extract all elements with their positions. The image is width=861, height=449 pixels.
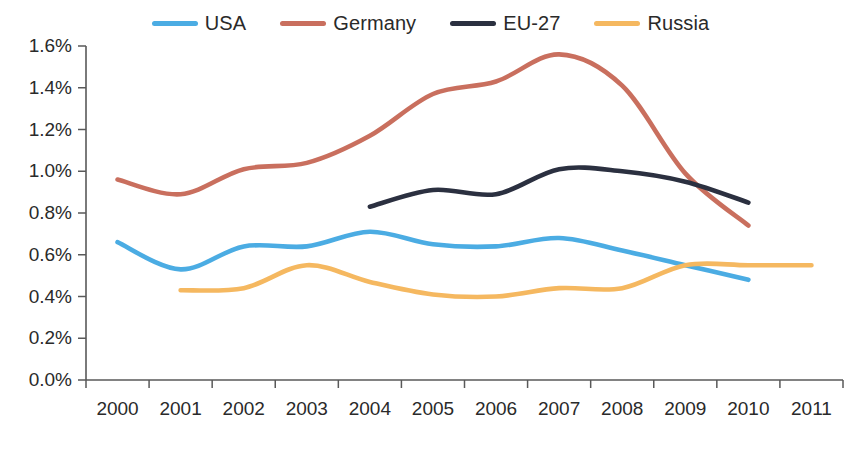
x-tick-label: 2004 xyxy=(349,398,392,419)
y-tick-label: 1.0% xyxy=(29,160,72,181)
legend-swatch-russia xyxy=(594,21,640,26)
y-tick-label: 0.4% xyxy=(29,286,72,307)
series-line-eu-27[interactable] xyxy=(370,168,749,207)
plot-svg: 0.0%0.2%0.4%0.6%0.8%1.0%1.2%1.4%1.6% 200… xyxy=(0,34,861,449)
plot-area: 0.0%0.2%0.4%0.6%0.8%1.0%1.2%1.4%1.6% 200… xyxy=(0,34,861,449)
y-axis-ticks xyxy=(78,46,86,380)
y-tick-label: 0.6% xyxy=(29,244,72,265)
y-tick-label: 1.6% xyxy=(29,35,72,56)
legend-label-usa: USA xyxy=(205,13,246,33)
x-tick-label: 2003 xyxy=(286,398,328,419)
y-tick-label: 0.2% xyxy=(29,327,72,348)
legend-label-eu27: EU-27 xyxy=(503,13,560,33)
y-axis-labels: 0.0%0.2%0.4%0.6%0.8%1.0%1.2%1.4%1.6% xyxy=(29,35,72,390)
legend-item-germany[interactable]: Germany xyxy=(280,13,416,33)
x-tick-label: 2002 xyxy=(223,398,265,419)
series-line-germany[interactable] xyxy=(118,54,749,225)
legend-swatch-usa xyxy=(152,21,198,26)
legend-swatch-eu27 xyxy=(450,21,496,26)
x-tick-label: 2011 xyxy=(791,398,832,419)
x-tick-label: 2005 xyxy=(412,398,454,419)
legend-label-russia: Russia xyxy=(647,13,709,33)
x-tick-label: 2006 xyxy=(475,398,517,419)
line-chart: USA Germany EU-27 Russia 0.0%0.2%0.4%0.6… xyxy=(0,0,861,449)
data-series-group xyxy=(118,54,812,297)
x-tick-label: 2007 xyxy=(538,398,580,419)
x-tick-label: 2009 xyxy=(664,398,706,419)
y-tick-label: 1.2% xyxy=(29,119,72,140)
series-line-usa[interactable] xyxy=(118,232,749,280)
legend-item-usa[interactable]: USA xyxy=(152,13,246,33)
x-tick-label: 2001 xyxy=(159,398,201,419)
x-tick-label: 2000 xyxy=(96,398,138,419)
series-line-russia[interactable] xyxy=(181,263,812,296)
x-tick-label: 2008 xyxy=(601,398,643,419)
x-tick-label: 2010 xyxy=(727,398,769,419)
legend-item-eu27[interactable]: EU-27 xyxy=(450,13,560,33)
y-tick-label: 0.8% xyxy=(29,202,72,223)
legend-swatch-germany xyxy=(280,21,326,26)
y-tick-label: 0.0% xyxy=(29,369,72,390)
y-tick-label: 1.4% xyxy=(29,77,72,98)
legend-label-germany: Germany xyxy=(333,13,416,33)
x-axis-ticks xyxy=(86,380,843,388)
x-axis-labels: 2000200120022003200420052006200720082009… xyxy=(96,398,831,419)
legend-item-russia[interactable]: Russia xyxy=(594,13,709,33)
